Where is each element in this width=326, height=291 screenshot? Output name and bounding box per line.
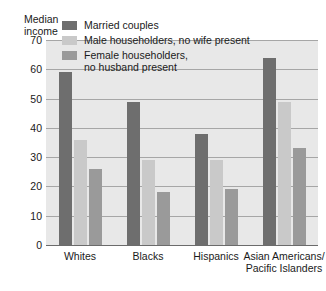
bar (263, 58, 276, 245)
y-tick-label: 60 (2, 64, 42, 75)
bar-chart: Median income 010203040506070 WhitesBlac… (0, 0, 326, 291)
legend-item: Male householders, no wife present (62, 34, 250, 46)
legend-swatch (62, 21, 77, 30)
y-tick-label: 40 (2, 123, 42, 134)
y-tick-label: 0 (2, 240, 42, 251)
x-axis-line (46, 245, 318, 246)
y-tick-label: 10 (2, 211, 42, 222)
legend-item: Female householders, no husband present (62, 49, 250, 73)
y-tick-label: 20 (2, 181, 42, 192)
bar (225, 189, 238, 245)
legend-swatch (62, 36, 77, 45)
bar (278, 102, 291, 246)
legend: Married couplesMale householders, no wif… (62, 19, 250, 76)
legend-label: Male householders, no wife present (84, 34, 250, 46)
bar (74, 140, 87, 245)
y-tick-label: 50 (2, 94, 42, 105)
bar (142, 160, 155, 245)
y-axis-tick-labels: 010203040506070 (0, 0, 42, 291)
bar (293, 148, 306, 245)
bar (127, 102, 140, 246)
x-tick-label: Asian Americans/ Pacific Islanders (240, 250, 326, 274)
bar (89, 169, 102, 245)
bar (59, 72, 72, 245)
bar-group (250, 40, 318, 245)
legend-swatch (62, 51, 77, 60)
bar (195, 134, 208, 245)
legend-label: Female householders, no husband present (84, 49, 188, 73)
legend-item: Married couples (62, 19, 250, 31)
legend-label: Married couples (84, 19, 159, 31)
y-tick-label: 70 (2, 35, 42, 46)
y-tick-label: 30 (2, 152, 42, 163)
bar (210, 160, 223, 245)
bar (157, 192, 170, 245)
